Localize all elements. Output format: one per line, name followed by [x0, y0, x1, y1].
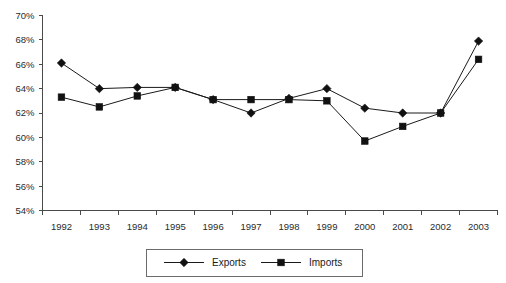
x-tick-label: 1996: [203, 221, 224, 232]
data-point-exports-1997: [247, 109, 255, 117]
y-tick-label: 60%: [15, 132, 35, 143]
x-axis-ticks: 1992199319941995199619971998199920002001…: [43, 211, 498, 232]
x-tick-label: 1999: [316, 221, 337, 232]
series-imports: [58, 56, 482, 144]
y-tick-label: 66%: [15, 59, 35, 70]
data-point-imports-2002: [437, 110, 444, 117]
series-line-imports: [61, 59, 478, 141]
x-tick-label: 2003: [468, 221, 489, 232]
data-point-imports-1998: [286, 96, 293, 103]
legend-label-imports: Imports: [309, 257, 342, 268]
data-point-exports-2001: [399, 109, 407, 117]
x-tick-label: 1994: [127, 221, 148, 232]
data-point-exports-1993: [95, 84, 103, 92]
data-point-exports-1999: [323, 84, 331, 92]
plot-series-group: [57, 37, 482, 144]
series-exports: [57, 37, 482, 117]
series-line-exports: [61, 41, 478, 113]
data-point-imports-2003: [475, 56, 482, 63]
y-tick-label: 58%: [15, 156, 35, 167]
chart-canvas: 54%56%58%60%62%64%66%68%70% 199219931994…: [0, 0, 506, 283]
data-point-imports-1994: [134, 93, 141, 100]
y-tick-label: 56%: [15, 181, 35, 192]
x-tick-label: 1993: [89, 221, 110, 232]
y-axis-ticks: 54%56%58%60%62%64%66%68%70%: [15, 10, 42, 216]
data-point-exports-2000: [361, 104, 369, 112]
data-point-imports-1996: [210, 96, 217, 103]
y-tick-label: 68%: [15, 34, 35, 45]
x-tick-label: 2000: [354, 221, 375, 232]
data-point-imports-1997: [248, 96, 255, 103]
y-tick-label: 64%: [15, 83, 35, 94]
x-tick-label: 2001: [392, 221, 413, 232]
data-point-imports-1995: [172, 84, 179, 91]
line-chart: 54%56%58%60%62%64%66%68%70% 199219931994…: [0, 0, 506, 283]
x-tick-label: 1997: [240, 221, 261, 232]
data-point-imports-1993: [96, 104, 103, 111]
x-tick-label: 1992: [51, 221, 72, 232]
y-tick-label: 62%: [15, 107, 35, 118]
x-tick-label: 2002: [430, 221, 451, 232]
legend-marker-square-icon: [278, 259, 285, 266]
legend-label-exports: Exports: [212, 257, 246, 268]
data-point-exports-2003: [474, 37, 482, 45]
x-tick-label: 1995: [165, 221, 186, 232]
data-point-imports-2001: [399, 123, 406, 130]
x-axis: 1992199319941995199619971998199920002001…: [43, 211, 498, 232]
data-point-imports-1992: [58, 94, 65, 101]
chart-legend: ExportsImports: [147, 250, 363, 277]
x-tick-label: 1998: [278, 221, 299, 232]
data-point-exports-1992: [57, 59, 65, 67]
y-tick-label: 70%: [15, 10, 35, 21]
y-axis: 54%56%58%60%62%64%66%68%70%: [15, 10, 42, 216]
data-point-imports-1999: [324, 98, 331, 105]
data-point-imports-2000: [361, 138, 368, 145]
y-tick-label: 54%: [15, 205, 35, 216]
data-point-exports-1994: [133, 83, 141, 91]
